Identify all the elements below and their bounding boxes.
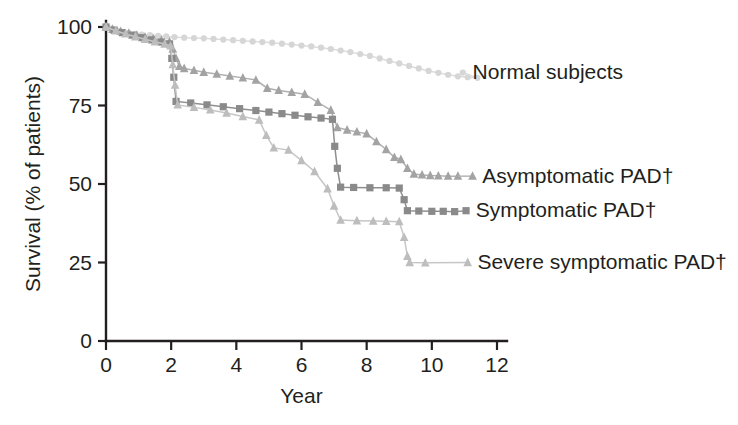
y-tick-label-75: 75 bbox=[69, 94, 92, 117]
series-normal-subjects bbox=[103, 24, 481, 81]
legend-item-severe-symptomatic-pad: Severe symptomatic PAD† bbox=[425, 250, 727, 273]
data-point bbox=[382, 145, 391, 154]
data-point bbox=[404, 207, 411, 214]
data-point bbox=[330, 201, 339, 210]
x-tick-label-12: 12 bbox=[485, 353, 508, 376]
data-point bbox=[396, 60, 402, 66]
data-point bbox=[240, 38, 246, 44]
data-point bbox=[455, 73, 461, 79]
y-tick-label-25: 25 bbox=[69, 251, 92, 274]
y-axis-ticks: 0255075100 bbox=[57, 15, 106, 352]
data-point bbox=[383, 184, 390, 191]
legend-item-normal-subjects: Normal subjects bbox=[460, 60, 623, 83]
data-point bbox=[279, 41, 285, 47]
data-point bbox=[201, 35, 207, 41]
data-point bbox=[435, 70, 441, 76]
data-point bbox=[310, 167, 319, 176]
data-point bbox=[366, 184, 373, 191]
data-point bbox=[377, 55, 383, 61]
data-point bbox=[318, 45, 324, 51]
axes-group: 0255075100 024681012 bbox=[57, 15, 509, 376]
x-axis-ticks: 024681012 bbox=[100, 341, 509, 376]
data-point bbox=[440, 208, 447, 215]
y-axis-title: Survival (% of patients) bbox=[21, 76, 44, 292]
data-point bbox=[406, 63, 412, 69]
x-tick-label-0: 0 bbox=[100, 353, 112, 376]
data-point bbox=[401, 196, 408, 203]
x-tick-label-8: 8 bbox=[361, 353, 373, 376]
data-point bbox=[265, 108, 272, 115]
y-tick-label-0: 0 bbox=[80, 329, 92, 352]
data-point bbox=[445, 72, 451, 78]
data-point bbox=[396, 184, 403, 191]
data-point bbox=[252, 107, 259, 114]
data-series-group bbox=[102, 22, 481, 266]
data-point bbox=[338, 47, 344, 53]
x-axis-title: Year bbox=[280, 384, 322, 407]
data-point bbox=[328, 46, 334, 52]
data-point bbox=[410, 169, 419, 178]
data-point bbox=[262, 130, 271, 139]
data-point bbox=[313, 97, 322, 106]
data-point bbox=[298, 42, 304, 48]
legend-group: Normal subjectsAsymptomatic PAD†Symptoma… bbox=[425, 60, 727, 273]
data-point bbox=[220, 36, 226, 42]
x-tick-label-10: 10 bbox=[420, 353, 443, 376]
data-point bbox=[329, 116, 336, 123]
data-point bbox=[425, 68, 431, 74]
data-point bbox=[372, 137, 381, 146]
data-point bbox=[181, 35, 187, 41]
legend-marker bbox=[462, 207, 469, 214]
data-point bbox=[210, 36, 216, 42]
data-point bbox=[259, 39, 265, 45]
data-point bbox=[191, 35, 197, 41]
legend-item-symptomatic-pad: Symptomatic PAD† bbox=[455, 198, 657, 221]
legend-label: Symptomatic PAD† bbox=[476, 198, 656, 221]
data-point bbox=[386, 58, 392, 64]
series-symptomatic-pad bbox=[102, 23, 458, 215]
data-point bbox=[403, 251, 412, 260]
data-point bbox=[304, 113, 311, 120]
data-point bbox=[263, 83, 272, 92]
data-point bbox=[269, 40, 275, 46]
data-point bbox=[347, 49, 353, 55]
data-point bbox=[337, 184, 344, 191]
legend-marker bbox=[460, 69, 466, 75]
legend-item-asymptomatic-pad: Asymptomatic PAD† bbox=[458, 164, 673, 187]
series-line bbox=[106, 27, 455, 212]
data-point bbox=[230, 37, 236, 43]
legend-label: Normal subjects bbox=[473, 60, 624, 83]
data-point bbox=[428, 208, 435, 215]
series-line bbox=[106, 27, 458, 176]
data-point bbox=[416, 65, 422, 71]
data-point bbox=[308, 43, 314, 49]
data-point bbox=[171, 34, 177, 40]
y-tick-label-50: 50 bbox=[69, 172, 92, 195]
data-point bbox=[220, 103, 227, 110]
legend-label: Asymptomatic PAD† bbox=[482, 164, 673, 187]
x-tick-label-6: 6 bbox=[296, 353, 308, 376]
data-point bbox=[327, 105, 336, 114]
x-tick-label-2: 2 bbox=[165, 353, 177, 376]
data-point bbox=[250, 38, 256, 44]
data-point bbox=[331, 143, 338, 150]
survival-plot: 0255075100 024681012 Normal subjectsAsym… bbox=[0, 0, 738, 425]
survival-curve-figure: 0255075100 024681012 Normal subjectsAsym… bbox=[0, 0, 738, 425]
data-point bbox=[317, 114, 324, 121]
x-tick-label-4: 4 bbox=[230, 353, 242, 376]
y-tick-label-100: 100 bbox=[57, 15, 92, 38]
data-point bbox=[171, 80, 180, 89]
data-point bbox=[297, 156, 306, 165]
data-point bbox=[350, 184, 357, 191]
series-line bbox=[106, 27, 477, 78]
data-point bbox=[289, 41, 295, 47]
data-point bbox=[415, 207, 422, 214]
data-point bbox=[367, 53, 373, 59]
data-point bbox=[357, 51, 363, 57]
data-point bbox=[291, 112, 298, 119]
data-point bbox=[236, 105, 243, 112]
data-point bbox=[333, 123, 342, 132]
data-point bbox=[400, 232, 409, 241]
legend-label: Severe symptomatic PAD† bbox=[477, 250, 726, 273]
data-point bbox=[278, 110, 285, 117]
